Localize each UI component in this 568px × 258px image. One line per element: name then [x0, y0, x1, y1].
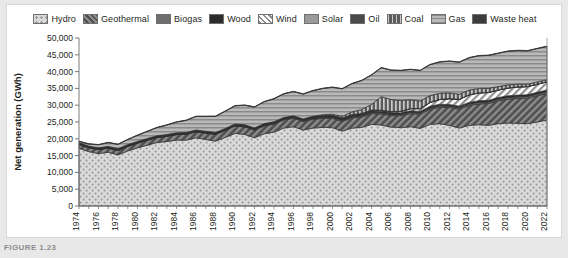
- x-axis-tick-label: 2002: [344, 212, 354, 231]
- y-axis-tick-label: 40,000: [47, 67, 73, 77]
- swatch-geothermal: [83, 14, 98, 24]
- legend-item-oil[interactable]: Oil: [350, 14, 379, 24]
- legend-item-solar[interactable]: Solar: [304, 14, 344, 24]
- x-axis-tick-label: 1974: [71, 212, 81, 231]
- legend-label: Gas: [449, 14, 466, 24]
- legend-item-gas[interactable]: Gas: [431, 14, 466, 24]
- x-axis-tick-label: 2016: [481, 212, 491, 231]
- x-axis-tick-label: 2012: [442, 212, 452, 231]
- swatch-oil: [350, 14, 365, 24]
- swatch-solar: [304, 14, 319, 24]
- swatch-waste-heat: [472, 14, 487, 24]
- y-axis-title: Net generation (GWh): [12, 73, 23, 171]
- x-axis-tick-label: 1996: [286, 212, 296, 231]
- x-axis-tick-label: 1998: [305, 212, 315, 231]
- legend-item-biogas[interactable]: Biogas: [156, 14, 202, 24]
- swatch-coal: [387, 14, 402, 24]
- legend-item-hydro[interactable]: Hydro: [33, 14, 76, 24]
- x-axis-tick-label: 2000: [325, 212, 335, 231]
- legend-label: Wind: [276, 14, 297, 24]
- x-axis-tick-label: 2006: [383, 212, 393, 231]
- x-axis-tick-label: 1990: [227, 212, 237, 231]
- y-axis-tick-label: 25,000: [47, 117, 73, 127]
- y-axis-tick-label: 0: [68, 201, 73, 211]
- y-axis-tick-label: 5,000: [52, 184, 74, 194]
- y-axis-tick-label: 10,000: [47, 167, 73, 177]
- legend-item-wood[interactable]: Wood: [209, 14, 251, 24]
- x-axis-tick-label: 2018: [500, 212, 510, 231]
- figure-page: HydroGeothermalBiogasWoodWindSolarOilCoa…: [0, 0, 568, 258]
- swatch-biogas: [156, 14, 171, 24]
- legend-label: Wood: [227, 14, 251, 24]
- legend-item-waste-heat[interactable]: Waste heat: [472, 14, 536, 24]
- x-axis-tick-label: 1986: [188, 212, 198, 231]
- legend-label: Coal: [405, 14, 424, 24]
- stacked-area-chart: 05,00010,00015,00020,00025,00030,00035,0…: [7, 27, 563, 239]
- x-axis-tick-label: 1988: [208, 212, 218, 231]
- x-axis-tick-label: 2014: [461, 212, 471, 231]
- plot-area: 05,00010,00015,00020,00025,00030,00035,0…: [7, 27, 563, 239]
- legend-label: Biogas: [174, 14, 202, 24]
- chart-series-group: [79, 46, 547, 206]
- y-axis-tick-label: 50,000: [47, 33, 73, 43]
- legend-label: Hydro: [51, 14, 76, 24]
- y-axis-tick-label: 30,000: [47, 100, 73, 110]
- x-axis-tick-label: 1980: [130, 212, 140, 231]
- swatch-gas: [431, 14, 446, 24]
- legend-label: Oil: [368, 14, 379, 24]
- x-axis-tick-label: 2004: [364, 212, 374, 231]
- y-axis-tick-label: 35,000: [47, 83, 73, 93]
- swatch-wind: [258, 14, 273, 24]
- legend-label: Geothermal: [101, 14, 149, 24]
- x-axis-tick-label: 2020: [520, 212, 530, 231]
- y-axis-tick-label: 15,000: [47, 151, 73, 161]
- swatch-hydro: [33, 14, 48, 24]
- y-axis-tick-label: 20,000: [47, 134, 73, 144]
- chart-legend: HydroGeothermalBiogasWoodWindSolarOilCoa…: [7, 11, 563, 27]
- x-axis-tick-label: 2022: [539, 212, 549, 231]
- chart-card: HydroGeothermalBiogasWoodWindSolarOilCoa…: [6, 4, 562, 238]
- y-axis-tick-label: 45,000: [47, 50, 73, 60]
- legend-label: Waste heat: [490, 14, 536, 24]
- x-axis-tick-label: 2010: [422, 212, 432, 231]
- figure-caption: FIGURE 1.23: [4, 243, 56, 252]
- legend-item-coal[interactable]: Coal: [387, 14, 424, 24]
- x-axis-tick-label: 1976: [91, 212, 101, 231]
- swatch-wood: [209, 14, 224, 24]
- x-axis-tick-label: 1978: [110, 212, 120, 231]
- legend-label: Solar: [322, 14, 344, 24]
- x-axis-tick-label: 1984: [169, 212, 179, 231]
- legend-item-wind[interactable]: Wind: [258, 14, 297, 24]
- x-axis-tick-label: 1982: [149, 212, 159, 231]
- x-axis-tick-label: 2008: [403, 212, 413, 231]
- legend-item-geothermal[interactable]: Geothermal: [83, 14, 149, 24]
- x-axis-tick-label: 1992: [247, 212, 257, 231]
- x-axis-tick-label: 1994: [266, 212, 276, 231]
